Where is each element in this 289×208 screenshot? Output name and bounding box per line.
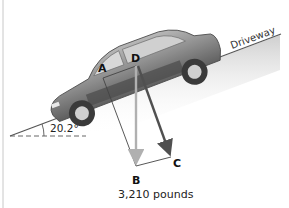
point-label-b: B <box>132 174 140 187</box>
weight-caption: 3,210 pounds <box>118 188 194 201</box>
line-b-to-c <box>136 157 171 166</box>
point-label-d: D <box>131 52 140 65</box>
point-label-c: C <box>173 157 181 170</box>
angle-label: 20.2° <box>50 122 79 134</box>
driveway-force-diagram: 20.2° Driveway A D B C 3,210 pounds <box>0 0 289 208</box>
point-label-a: A <box>98 62 107 75</box>
